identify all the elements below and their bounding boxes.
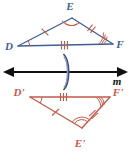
vertex-label-E-prime: E'	[74, 137, 85, 149]
geometry-figure: D E F m	[0, 0, 131, 152]
triangle-DEF: D E F	[4, 0, 124, 52]
vertex-label-E: E	[65, 0, 73, 12]
figure-canvas: D E F m	[0, 0, 131, 152]
line-m-arrow-left	[3, 67, 14, 77]
tick-marks-D-prime-E-prime	[52, 109, 59, 116]
angle-arc-D	[28, 40, 30, 46]
tick-marks-DE	[42, 29, 49, 36]
vertex-label-F-prime: F'	[112, 86, 123, 98]
vertex-label-D-prime: D'	[13, 86, 25, 98]
vertex-label-F: F	[115, 38, 124, 50]
angle-arcs-F-prime	[96, 97, 104, 108]
vertex-label-D: D	[4, 40, 13, 52]
triangle-D-prime-E-prime-F-prime: D' F' E'	[13, 86, 124, 149]
angle-arc-D-prime	[40, 97, 42, 103]
side-E-prime-F-prime	[82, 97, 110, 128]
angle-arcs-F	[99, 33, 107, 44]
side-DF	[18, 44, 113, 46]
